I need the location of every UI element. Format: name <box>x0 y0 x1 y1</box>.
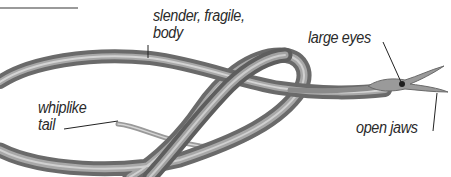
label-eyes: large eyes <box>308 29 371 46</box>
label-jaws: open jaws <box>356 119 418 136</box>
eel-head <box>368 66 448 92</box>
eyes-leader-line <box>383 42 401 82</box>
eel-eye <box>399 81 405 87</box>
label-body-line1: slender, fragile, <box>153 7 245 24</box>
label-tail: whiplike tail <box>38 99 86 133</box>
jaws-leader-line <box>433 93 437 131</box>
label-body-line2: body <box>153 24 245 41</box>
label-tail-line2: tail <box>38 116 86 133</box>
eel-diagram: slender, fragile, body large eyes whipli… <box>0 0 451 177</box>
label-body: slender, fragile, body <box>153 7 245 41</box>
label-tail-line1: whiplike <box>38 99 86 116</box>
